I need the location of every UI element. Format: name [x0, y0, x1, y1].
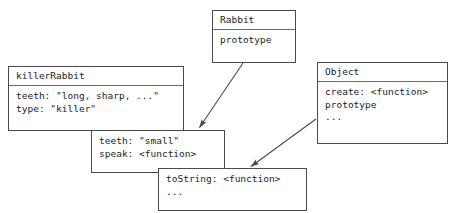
arrow-object-to-object-prototype [251, 119, 316, 167]
box-rabbit-prototype: teeth: "small" speak: <function> [91, 130, 225, 173]
prototype-chain-diagram: Rabbit prototype killerRabbit teeth: "lo… [0, 0, 455, 213]
property-row: prototype [220, 34, 288, 47]
property-row: speak: <function> [99, 148, 217, 161]
property-row: ... [325, 111, 440, 124]
box-object-prototype-body: toString: <function> ... [159, 169, 306, 202]
arrow-rabbit-to-rabbit-prototype [200, 63, 244, 128]
box-object: Object create: <function> prototype ... [317, 62, 448, 144]
box-rabbit-title: Rabbit [213, 11, 295, 30]
box-object-prototype: toString: <function> ... [158, 168, 307, 211]
property-row: prototype [325, 99, 440, 112]
property-row: teeth: "small" [99, 135, 217, 148]
property-row: teeth: "long, sharp, ..." [16, 90, 176, 103]
box-rabbit-body: prototype [213, 30, 295, 51]
box-rabbit-prototype-body: teeth: "small" speak: <function> [92, 131, 224, 164]
box-object-body: create: <function> prototype ... [318, 82, 447, 128]
box-rabbit: Rabbit prototype [212, 10, 296, 63]
property-row: type: "killer" [16, 103, 176, 116]
property-row: create: <function> [325, 86, 440, 99]
box-killer-rabbit-title: killerRabbit [9, 67, 183, 86]
property-row: ... [166, 186, 299, 199]
box-object-title: Object [318, 63, 447, 82]
box-killer-rabbit-body: teeth: "long, sharp, ..." type: "killer" [9, 86, 183, 119]
property-row: toString: <function> [166, 173, 299, 186]
box-killer-rabbit: killerRabbit teeth: "long, sharp, ..." t… [8, 66, 184, 131]
